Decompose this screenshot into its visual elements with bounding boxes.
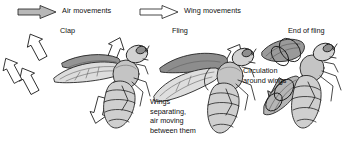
annotation-line: between them <box>150 126 196 136</box>
figure-canvas: Air movements Wing movements Clap Fling … <box>0 0 350 145</box>
annotation-line: around wings <box>243 76 286 86</box>
annotation-line: separating, <box>150 107 196 117</box>
annotation-line: Wings <box>150 97 196 107</box>
bee-clap <box>42 36 150 136</box>
annotation-line: Circulation <box>243 66 286 76</box>
annotation-circulation-around-wings: Circulation around wings <box>243 66 286 85</box>
annotation-line: air moving <box>150 116 196 126</box>
annotation-wings-separating: Wings separating, air moving between the… <box>150 97 196 135</box>
bee-end-of-fling <box>258 34 350 142</box>
